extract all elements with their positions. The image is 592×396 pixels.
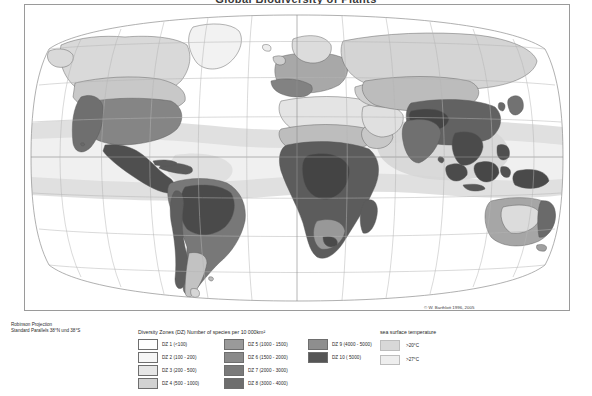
legend-item: DZ 5 (1000 - 1500) <box>224 339 308 350</box>
legend-label: DZ 5 (1000 - 1500) <box>248 342 288 347</box>
legend-label: DZ 8 (3000 - 4000) <box>248 381 288 386</box>
legend-label: DZ 7 (2000 - 3000) <box>248 368 288 373</box>
diversity-zones-legend: Diversity Zones (DZ) Number of species p… <box>138 329 398 389</box>
projection-note: Robinson Projection Standard Parallels 3… <box>11 322 80 335</box>
sst-swatch <box>380 340 400 351</box>
hawaii <box>81 143 85 146</box>
legend-item: DZ 3 (200 - 500) <box>138 365 224 376</box>
sst-legend-item: >20°C <box>380 340 490 351</box>
world-map[interactable] <box>25 5 569 310</box>
legend-swatch <box>308 339 328 350</box>
legend-column-1: DZ 1 (<100) DZ 2 (100 - 200) DZ 3 (200 -… <box>138 339 224 389</box>
legend-label: DZ 1 (<100) <box>162 342 187 347</box>
copyright-notice: © W. Barthlott 1996, 2005 <box>424 305 474 310</box>
legend-swatch <box>224 365 244 376</box>
standard-parallels: Standard Parallels 38°N und 38°S <box>11 328 80 334</box>
legend-label: DZ 6 (1500 - 2000) <box>248 355 288 360</box>
legend-swatch <box>138 339 158 350</box>
falkland-islands <box>209 277 214 281</box>
philippines <box>497 145 510 160</box>
legend-item: DZ 2 (100 - 200) <box>138 352 224 363</box>
patagonia <box>191 288 200 297</box>
sst-legend-title: sea surface temperature <box>380 329 490 335</box>
legend-item: DZ 7 (2000 - 3000) <box>224 365 308 376</box>
sst-swatch <box>380 355 400 366</box>
sst-label: >27°C <box>406 357 419 362</box>
sst-label: >20°C <box>406 343 419 348</box>
legend-item: DZ 6 (1500 - 2000) <box>224 352 308 363</box>
sea-surface-temperature-legend: sea surface temperature >20°C >27°C <box>380 329 490 369</box>
legend-swatch <box>224 378 244 389</box>
legend-label: DZ 2 (100 - 200) <box>162 355 197 360</box>
map-frame[interactable]: © W. Barthlott 1996, 2005 <box>24 4 570 311</box>
new-zealand <box>559 233 568 248</box>
legend-column-2: DZ 5 (1000 - 1500) DZ 6 (1500 - 2000) DZ… <box>224 339 308 389</box>
japan <box>508 96 524 115</box>
legend-title: Diversity Zones (DZ) Number of species p… <box>138 329 398 335</box>
legend-label: DZ 3 (200 - 500) <box>162 368 197 373</box>
legend-item: DZ 4 (500 - 1000) <box>138 378 224 389</box>
legend-item: DZ 1 (<100) <box>138 339 224 350</box>
legend-label: DZ 9 (4000 - 5000) <box>332 342 372 347</box>
legend-swatch <box>224 339 244 350</box>
legend-item: DZ 8 (3000 - 4000) <box>224 378 308 389</box>
legend-swatch <box>138 352 158 363</box>
legend-label: DZ 4 (500 - 1000) <box>162 381 199 386</box>
legend-swatch <box>308 352 328 363</box>
legend-swatch <box>224 352 244 363</box>
legend-label: DZ 10 ( 5000) <box>332 355 361 360</box>
sst-legend-item: >27°C <box>380 355 490 366</box>
legend-swatch <box>138 378 158 389</box>
legend-swatch <box>138 365 158 376</box>
